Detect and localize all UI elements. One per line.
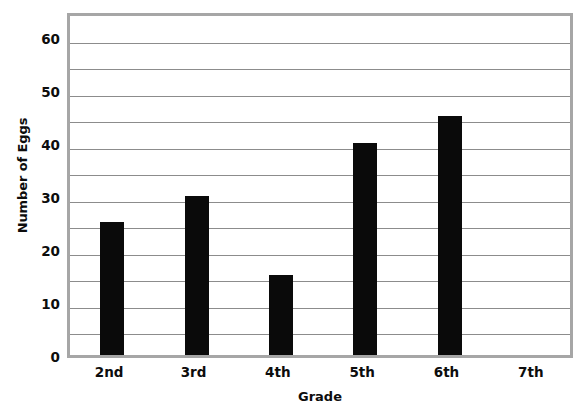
gridline: [70, 308, 570, 309]
gridline: [70, 255, 570, 256]
gridline: [70, 122, 570, 123]
y-tick-label-60: 60: [20, 33, 60, 47]
gridline: [70, 334, 570, 335]
bar-2nd: [100, 222, 124, 355]
x-axis-title: Grade: [67, 389, 573, 404]
bar-3rd: [185, 196, 209, 355]
y-tick-label-40: 40: [20, 139, 60, 153]
gridline: [70, 69, 570, 70]
gridline: [70, 228, 570, 229]
y-tick-label-20: 20: [20, 245, 60, 259]
x-tick-label-4th: 4th: [238, 364, 318, 380]
bar-4th: [269, 275, 293, 355]
y-tick-label-0: 0: [20, 351, 60, 365]
y-axis-tick-labels: 0102030405060: [10, 0, 60, 413]
y-tick-label-50: 50: [20, 86, 60, 100]
x-tick-label-5th: 5th: [322, 364, 402, 380]
x-tick-label-6th: 6th: [407, 364, 487, 380]
gridline: [70, 281, 570, 282]
x-tick-label-2nd: 2nd: [69, 364, 149, 380]
x-tick-label-3rd: 3rd: [154, 364, 234, 380]
gridline: [70, 96, 570, 97]
x-axis-tick-labels: 2nd3rd4th5th6th7th: [67, 364, 573, 386]
bar-5th: [353, 143, 377, 355]
y-tick-label-10: 10: [20, 298, 60, 312]
y-tick-label-30: 30: [20, 192, 60, 206]
x-tick-label-7th: 7th: [491, 364, 571, 380]
bar-6th: [438, 116, 462, 355]
gridline: [70, 149, 570, 150]
gridline: [70, 43, 570, 44]
plot-area: [67, 13, 573, 358]
gridline: [70, 175, 570, 176]
plot-inner: [70, 16, 570, 355]
bar-chart: Number of Eggs 0102030405060 2nd3rd4th5t…: [0, 0, 583, 413]
gridline: [70, 202, 570, 203]
